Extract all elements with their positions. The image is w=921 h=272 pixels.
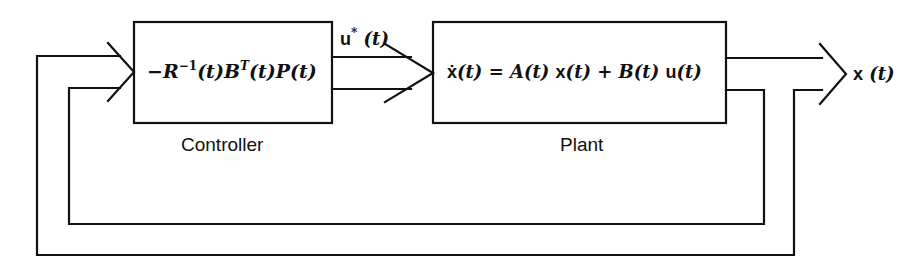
controller-R: R — [163, 60, 179, 82]
feedback-arrow-head — [108, 43, 134, 101]
controller-P: P — [276, 60, 290, 82]
plant-plus: + — [591, 61, 619, 82]
plant-arg3: (t) — [566, 61, 591, 82]
plant-A: A — [510, 61, 524, 82]
control-signal-arg: (t) — [357, 28, 389, 49]
controller-arg1: (t) — [197, 60, 224, 82]
output-signal-label: x (t) — [853, 63, 895, 85]
controller-B: B — [224, 60, 240, 82]
plant-B: B — [619, 61, 634, 82]
block-diagram-canvas — [0, 0, 921, 272]
output-signal-x: x — [853, 64, 863, 84]
plant-expression: ẋ(t) = A(t) x(t) + B(t) u(t) — [447, 61, 702, 83]
plant-x: x — [556, 62, 566, 82]
controller-expression: −R−1(t)BT(t)P(t) — [147, 59, 317, 82]
output-signal-arrow — [726, 44, 846, 104]
plant-arg5: (t) — [676, 61, 701, 82]
control-signal-arrow — [332, 44, 433, 102]
control-signal-label: u* (t) — [340, 26, 389, 50]
output-signal-arg: (t) — [863, 63, 895, 84]
controller-arg3: (t) — [290, 60, 317, 82]
plant-arg2: (t) — [524, 61, 556, 82]
control-signal-u: u — [340, 29, 351, 49]
controller-B-transpose: T — [240, 59, 249, 73]
plant-u: u — [665, 62, 676, 82]
controller-sign: − — [147, 60, 163, 82]
controller-arg2: (t) — [249, 60, 276, 82]
plant-arg1: (t) — [457, 61, 482, 82]
plant-equals: = — [482, 61, 510, 82]
plant-xdot: ẋ — [447, 62, 457, 82]
plant-caption: Plant — [560, 134, 603, 156]
controller-caption: Controller — [181, 134, 263, 156]
controller-R-exponent: −1 — [179, 59, 197, 73]
plant-arg4: (t) — [634, 61, 666, 82]
